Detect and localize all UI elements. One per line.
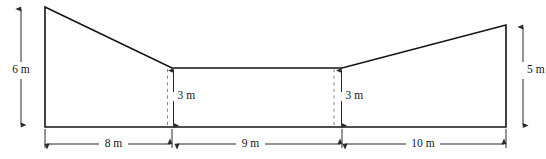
dimension-height-inner-right: 3 m <box>334 69 363 127</box>
dimension-label-width-middle: 9 m <box>242 137 260 149</box>
dimension-width-right: 10 m <box>342 129 506 149</box>
dimension-label-height-inner-left: 3 m <box>178 89 196 101</box>
dimension-width-left: 8 m <box>45 129 172 149</box>
dimension-label-height-right: 5 m <box>527 63 545 75</box>
cross-section-outline <box>45 7 506 127</box>
cross-section-diagram: 6 m 3 m 3 m 5 m 8 m <box>0 0 546 159</box>
dimension-width-middle: 9 m <box>177 137 340 149</box>
dimension-label-width-right: 10 m <box>411 137 434 149</box>
dimension-height-inner-left: 3 m <box>168 69 196 127</box>
dimension-height-left: 6 m <box>12 9 30 125</box>
dimension-label-height-left: 6 m <box>12 63 30 75</box>
dimension-height-right: 5 m <box>523 27 545 126</box>
dimension-label-height-inner-right: 3 m <box>346 89 364 101</box>
dimension-label-width-left: 8 m <box>105 137 123 149</box>
geometry-figure: 6 m 3 m 3 m 5 m 8 m <box>0 0 546 159</box>
